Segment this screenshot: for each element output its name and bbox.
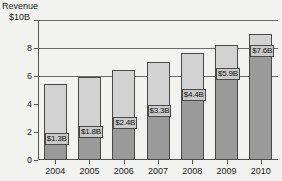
x-tick-mark: [55, 160, 56, 164]
gridline: [38, 20, 278, 21]
x-tick-mark: [227, 160, 228, 164]
gridline: [38, 48, 278, 49]
x-tick-mark: [261, 160, 262, 164]
bar-segment-lower[interactable]: [112, 126, 135, 160]
y-tick-mark: [34, 48, 38, 49]
x-tick-mark: [124, 160, 125, 164]
bar-value-label: $2.4B: [113, 117, 137, 129]
x-tick-label: 2010: [245, 167, 277, 176]
revenue-bar-chart: Revenue $10B 86420 $1.3B$1.8B$2.4B$3.3B$…: [0, 0, 282, 181]
x-tick-mark: [89, 160, 90, 164]
x-tick-mark: [158, 160, 159, 164]
x-tick-label: 2005: [73, 167, 105, 176]
x-tick-mark: [192, 160, 193, 164]
x-tick-label: 2007: [142, 167, 174, 176]
bar-value-label: $7.6B: [250, 45, 274, 57]
y-tick-mark: [34, 20, 38, 21]
bar-value-label: $4.4B: [182, 89, 206, 101]
bar-value-label: $5.9B: [216, 68, 240, 80]
y-tick-label: 0: [6, 156, 32, 165]
y-tick-label: 6: [6, 72, 32, 81]
y-tick-mark: [34, 76, 38, 77]
x-tick-label: 2004: [39, 167, 71, 176]
bar-column[interactable]: [181, 53, 204, 160]
y-tick-label: 2: [6, 128, 32, 137]
y-axis-title: Revenue: [2, 1, 38, 11]
bar-segment-lower[interactable]: [147, 114, 170, 160]
y-tick-mark: [34, 160, 38, 161]
y-tick-label: 8: [6, 44, 32, 53]
bar-segment-lower[interactable]: [78, 135, 101, 160]
bar-column[interactable]: [112, 70, 135, 160]
plot-area: 86420 $1.3B$1.8B$2.4B$3.3B$4.4B$5.9B$7.6…: [38, 20, 278, 160]
y-tick-mark: [34, 104, 38, 105]
x-tick-label: 2009: [211, 167, 243, 176]
bar-column[interactable]: [215, 45, 238, 161]
y-axis-top-tick-label: $10B: [9, 12, 30, 22]
bar-segment-lower[interactable]: [215, 77, 238, 160]
bar-segment-lower[interactable]: [249, 54, 272, 160]
bar-segment-lower[interactable]: [181, 98, 204, 160]
bar-value-label: $3.3B: [148, 105, 172, 117]
y-tick-mark: [34, 132, 38, 133]
bar-value-label: $1.8B: [79, 126, 103, 138]
bar-value-label: $1.3B: [45, 133, 69, 145]
x-tick-label: 2006: [108, 167, 140, 176]
x-tick-label: 2008: [176, 167, 208, 176]
y-tick-label: 4: [6, 100, 32, 109]
bar-column[interactable]: [78, 77, 101, 160]
bar-column[interactable]: [44, 84, 67, 160]
